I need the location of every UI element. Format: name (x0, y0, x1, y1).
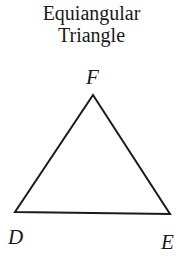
vertex-label-e: E (160, 230, 174, 254)
vertex-label-f: F (85, 65, 99, 89)
equiangular-triangle (15, 95, 170, 214)
vertex-label-d: D (7, 225, 23, 249)
triangle-diagram: F D E (0, 0, 183, 259)
